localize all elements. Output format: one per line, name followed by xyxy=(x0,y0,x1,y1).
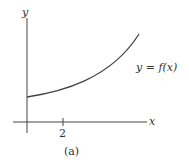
tick-label-2: 2 xyxy=(59,127,66,140)
x-axis-label: x xyxy=(149,115,156,128)
y-axis-label: y xyxy=(21,6,29,19)
curve-fx xyxy=(27,34,139,97)
caption: (a) xyxy=(64,145,79,158)
curve-label: y = f(x) xyxy=(135,61,177,74)
figure: y x 2 y = f(x) (a) xyxy=(0,0,189,165)
